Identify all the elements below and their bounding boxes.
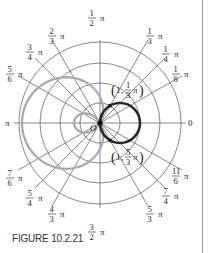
svg-text:1: 1 <box>148 26 152 36</box>
angle-label-3-4-pi: 34π <box>26 42 43 62</box>
svg-text:π: π <box>174 49 179 59</box>
angle-label-2-3-pi: 23π <box>48 26 65 46</box>
svg-text:3: 3 <box>50 36 54 46</box>
svg-text:2: 2 <box>90 232 94 242</box>
svg-text:5: 5 <box>126 147 130 157</box>
svg-text:4: 4 <box>28 198 33 208</box>
svg-text:4: 4 <box>50 204 55 214</box>
svg-text:6: 6 <box>174 74 178 84</box>
svg-text:π: π <box>158 209 163 219</box>
angle-label-7-6-pi: 76π <box>6 168 23 188</box>
svg-text:7: 7 <box>164 186 168 196</box>
svg-text:4: 4 <box>28 52 33 62</box>
svg-text:π: π <box>18 173 23 183</box>
svg-text:π: π <box>174 191 179 201</box>
svg-text:1: 1 <box>116 85 121 95</box>
angle-label-5-6-pi: 56π <box>6 64 23 84</box>
svg-text:π: π <box>38 47 43 57</box>
origin-point <box>97 120 102 125</box>
svg-text:3: 3 <box>90 222 94 232</box>
svg-text:6: 6 <box>8 74 12 84</box>
svg-text:3: 3 <box>126 157 130 167</box>
svg-text:,: , <box>121 85 123 95</box>
zero-label: 0 <box>188 118 193 128</box>
svg-text:1: 1 <box>164 44 168 54</box>
svg-text:π: π <box>60 209 65 219</box>
svg-text:4: 4 <box>164 54 169 64</box>
svg-text:π: π <box>100 13 105 23</box>
point-label-upper: ( 1 , 1 3 π ) <box>111 80 144 100</box>
svg-text:): ) <box>139 83 144 99</box>
angle-label-3-2-pi: 32π <box>88 222 105 242</box>
svg-text:π: π <box>133 85 138 95</box>
svg-text:2: 2 <box>50 26 54 36</box>
svg-text:π: π <box>60 31 65 41</box>
svg-text:π: π <box>38 193 43 203</box>
svg-text:π: π <box>158 31 163 41</box>
angle-label-5-3-pi: 53π <box>146 204 163 224</box>
svg-text:6: 6 <box>174 176 178 186</box>
angle-label-1-4-pi: 14π <box>162 44 179 64</box>
svg-text:1: 1 <box>90 8 94 18</box>
intersection-point-upper <box>108 104 112 108</box>
svg-text:3: 3 <box>126 90 130 100</box>
svg-text:3: 3 <box>28 42 32 52</box>
svg-text:,: , <box>121 152 123 162</box>
angle-label-1-3-pi: 13π <box>146 26 163 46</box>
svg-text:5: 5 <box>8 64 12 74</box>
figure-caption: FIGURE 10.2.21 <box>12 233 83 244</box>
svg-text:1: 1 <box>174 64 178 74</box>
origin-label: O <box>90 123 97 133</box>
svg-text:1: 1 <box>126 80 130 90</box>
svg-text:11: 11 <box>172 166 180 176</box>
svg-text:6: 6 <box>8 178 12 188</box>
angle-label-7-4-pi: 74π <box>162 186 179 206</box>
svg-text:3: 3 <box>148 36 152 46</box>
svg-text:1: 1 <box>116 152 121 162</box>
angle-label-4-3-pi: 43π <box>48 204 65 224</box>
angle-label-5-4-pi: 54π <box>26 188 43 208</box>
svg-text:π: π <box>18 69 23 79</box>
intersection-point-lower <box>108 138 112 142</box>
page-rule <box>202 0 203 253</box>
svg-text:π: π <box>133 152 138 162</box>
svg-text:5: 5 <box>28 188 32 198</box>
polar-graph: O 0 π 16π14π13π12π23π34π56π76π54π43π32π5… <box>0 0 209 253</box>
svg-text:): ) <box>139 150 144 166</box>
svg-text:2: 2 <box>90 18 94 28</box>
svg-text:π: π <box>100 227 105 237</box>
svg-text:3: 3 <box>148 214 152 224</box>
svg-text:4: 4 <box>164 196 169 206</box>
angle-label-1-6-pi: 16π <box>172 64 189 84</box>
svg-text:π: π <box>184 69 189 79</box>
svg-text:π: π <box>184 171 189 181</box>
svg-text:7: 7 <box>8 168 12 178</box>
svg-text:5: 5 <box>148 204 152 214</box>
angle-label-1-2-pi: 12π <box>88 8 105 28</box>
svg-text:3: 3 <box>50 214 54 224</box>
pi-label: π <box>5 118 10 128</box>
